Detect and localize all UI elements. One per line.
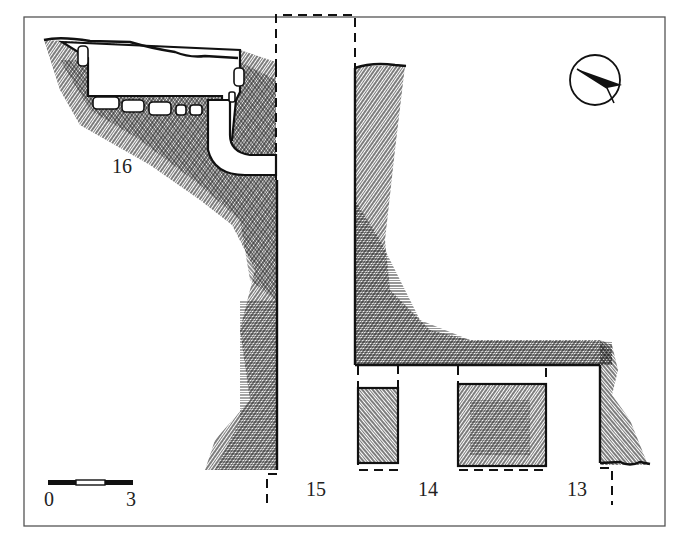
room-13-east-masonry: [600, 340, 648, 465]
pier-east-inner: [470, 400, 530, 455]
north-arrow-icon: [570, 55, 622, 105]
room-13-door-limit: [600, 468, 612, 505]
scale-label-end: 3: [126, 488, 136, 510]
site-plan: 16 15 14 13 0 3: [0, 0, 689, 544]
room-label-14: 14: [418, 478, 438, 500]
pier-west-of-14: [358, 388, 398, 463]
room-label-16: 16: [112, 155, 132, 177]
scale-bar: [48, 480, 133, 485]
room-15-door-limit: [267, 474, 277, 505]
east-masonry: [355, 66, 612, 365]
room-label-13: 13: [567, 478, 587, 500]
room-label-15: 15: [306, 478, 326, 500]
corridor-15-top-limit: [276, 15, 355, 68]
scale-label-start: 0: [44, 488, 54, 510]
